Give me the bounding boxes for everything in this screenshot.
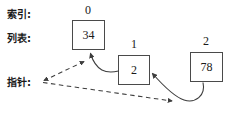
- dashed-pointer-to-node2: [43, 83, 172, 102]
- index-label-0: 0: [80, 3, 96, 18]
- index-label-1: 1: [126, 37, 142, 52]
- row-label-pointer: 指针:: [7, 74, 31, 89]
- arrow-node1-to-node0: [91, 54, 119, 73]
- row-label-list: 列表:: [7, 30, 31, 45]
- dashed-pointer-to-node0: [44, 62, 84, 81]
- node-box-2: 78: [190, 52, 223, 82]
- node-box-1: 2: [118, 55, 150, 85]
- diagram-canvas: 索引: 列表: 指针: 0 1 2 34 2 78: [0, 0, 229, 120]
- row-label-index: 索引:: [7, 6, 31, 21]
- node-box-0: 34: [72, 20, 105, 50]
- index-label-2: 2: [198, 34, 214, 49]
